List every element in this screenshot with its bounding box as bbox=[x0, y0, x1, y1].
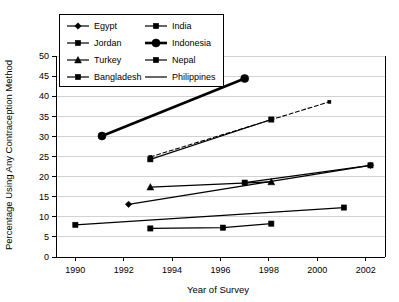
legend-item-indonesia[interactable]: Indonesia bbox=[145, 38, 211, 48]
y-tick-label-40: 40 bbox=[39, 91, 49, 101]
x-tick-label-1996: 1996 bbox=[210, 265, 230, 275]
y-axis-title: Percentage Using Any Contraception Metho… bbox=[3, 60, 14, 250]
series-line-india bbox=[75, 208, 344, 225]
y-tick-label-20: 20 bbox=[39, 172, 49, 182]
legend-marker-bangladesh bbox=[75, 74, 80, 79]
x-axis-ticks: 1990199219941996199820002002 bbox=[65, 257, 375, 275]
x-tick-label-1992: 1992 bbox=[114, 265, 134, 275]
data-series-group bbox=[73, 75, 374, 232]
y-tick-label-5: 5 bbox=[44, 232, 49, 242]
datapoint-bangladesh-2 bbox=[269, 221, 274, 226]
y-tick-label-0: 0 bbox=[44, 252, 49, 262]
y-tick-label-30: 30 bbox=[39, 132, 49, 142]
legend-marker-india bbox=[153, 23, 158, 28]
datapoint-jordan-1 bbox=[368, 163, 373, 168]
legend: EgyptIndiaJordanIndonesiaTurkeyNepalBang… bbox=[59, 14, 223, 86]
y-tick-label-10: 10 bbox=[39, 212, 49, 222]
legend-label-egypt: Egypt bbox=[94, 21, 118, 31]
series-line-indonesia bbox=[102, 79, 245, 136]
y-tick-label-50: 50 bbox=[39, 51, 49, 61]
series-nepal bbox=[148, 117, 274, 162]
series-line-jordan bbox=[245, 165, 371, 182]
legend-marker-nepal bbox=[153, 57, 158, 62]
x-tick-label-1994: 1994 bbox=[162, 265, 182, 275]
datapoint-egypt-0 bbox=[125, 201, 131, 207]
chart-canvas: 05101520253035404550 1990199219941996199… bbox=[0, 0, 399, 302]
datapoint-india-0 bbox=[73, 222, 78, 227]
datapoint-india-1 bbox=[341, 205, 346, 210]
y-tick-label-35: 35 bbox=[39, 112, 49, 122]
series-line-philippines bbox=[150, 102, 329, 157]
x-tick-label-1990: 1990 bbox=[65, 265, 85, 275]
series-egypt bbox=[125, 162, 373, 207]
datapoint-indonesia-1 bbox=[241, 75, 249, 83]
datapoint-indonesia-0 bbox=[98, 132, 106, 140]
y-tick-label-15: 15 bbox=[39, 192, 49, 202]
legend-marker-jordan bbox=[75, 40, 80, 45]
legend-label-jordan: Jordan bbox=[94, 38, 122, 48]
y-tick-label-45: 45 bbox=[39, 71, 49, 81]
series-india bbox=[73, 205, 347, 227]
datapoint-philippines-1 bbox=[328, 100, 331, 103]
legend-label-nepal: Nepal bbox=[172, 55, 196, 65]
x-axis-title: Year of Survey bbox=[187, 284, 249, 295]
datapoint-bangladesh-0 bbox=[148, 226, 153, 231]
legend-label-turkey: Turkey bbox=[94, 55, 122, 65]
legend-marker-indonesia bbox=[152, 39, 160, 47]
series-bangladesh bbox=[148, 221, 274, 231]
x-tick-label-2000: 2000 bbox=[307, 265, 327, 275]
legend-label-india: India bbox=[172, 21, 192, 31]
x-tick-label-1998: 1998 bbox=[259, 265, 279, 275]
y-axis-ticks: 05101520253035404550 bbox=[39, 51, 56, 262]
datapoint-philippines-0 bbox=[149, 155, 152, 158]
series-philippines bbox=[149, 100, 331, 158]
series-line-bangladesh bbox=[150, 224, 271, 229]
legend-label-bangladesh: Bangladesh bbox=[94, 72, 142, 82]
x-tick-label-2002: 2002 bbox=[356, 265, 376, 275]
series-line-egypt bbox=[129, 165, 371, 204]
datapoint-bangladesh-1 bbox=[220, 225, 225, 230]
contraception-line-chart: 05101520253035404550 1990199219941996199… bbox=[0, 0, 399, 302]
legend-label-indonesia: Indonesia bbox=[172, 38, 211, 48]
y-tick-label-25: 25 bbox=[39, 152, 49, 162]
legend-label-philippines: Philippines bbox=[172, 72, 216, 82]
